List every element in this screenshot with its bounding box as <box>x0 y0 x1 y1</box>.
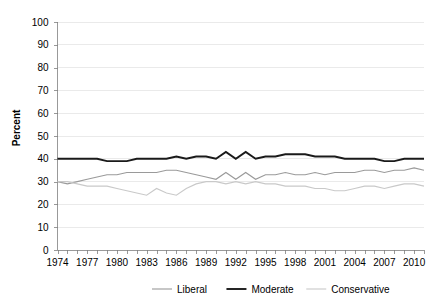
y-tick-label: 80 <box>37 62 49 73</box>
x-tick-label: 1998 <box>284 257 307 268</box>
legend-label-liberal: Liberal <box>177 284 207 295</box>
x-tick-label: 1989 <box>195 257 218 268</box>
y-tick-label: 40 <box>37 153 49 164</box>
x-tick-label: 2001 <box>314 257 337 268</box>
x-tick-label: 2004 <box>344 257 367 268</box>
x-tick-label: 1977 <box>76 257 99 268</box>
y-tick-label: 10 <box>37 222 49 233</box>
y-axis-title: Percent <box>11 109 22 146</box>
chart-container: 0102030405060708090100 19741977198019831… <box>0 0 439 306</box>
x-tick-label: 1995 <box>254 257 277 268</box>
legend-label-moderate: Moderate <box>251 284 294 295</box>
y-tick-label: 70 <box>37 85 49 96</box>
line-chart: 0102030405060708090100 19741977198019831… <box>0 0 439 306</box>
y-tick-label: 100 <box>32 17 49 28</box>
x-tick-label: 1992 <box>225 257 248 268</box>
x-tick-label: 1983 <box>136 257 159 268</box>
chart-legend: LiberalModerateConservative <box>152 284 390 295</box>
x-tick-label: 1986 <box>165 257 188 268</box>
x-tick-label: 1980 <box>106 257 129 268</box>
legend-label-conservative: Conservative <box>331 284 390 295</box>
y-tick-label: 60 <box>37 108 49 119</box>
x-tick-label: 2010 <box>403 257 426 268</box>
y-tick-label: 20 <box>37 199 49 210</box>
y-tick-label: 30 <box>37 176 49 187</box>
y-tick-label: 90 <box>37 39 49 50</box>
x-tick-label: 2007 <box>373 257 396 268</box>
x-tick-label: 1974 <box>46 257 69 268</box>
y-tick-label: 0 <box>43 245 49 256</box>
y-tick-label: 50 <box>37 131 49 142</box>
